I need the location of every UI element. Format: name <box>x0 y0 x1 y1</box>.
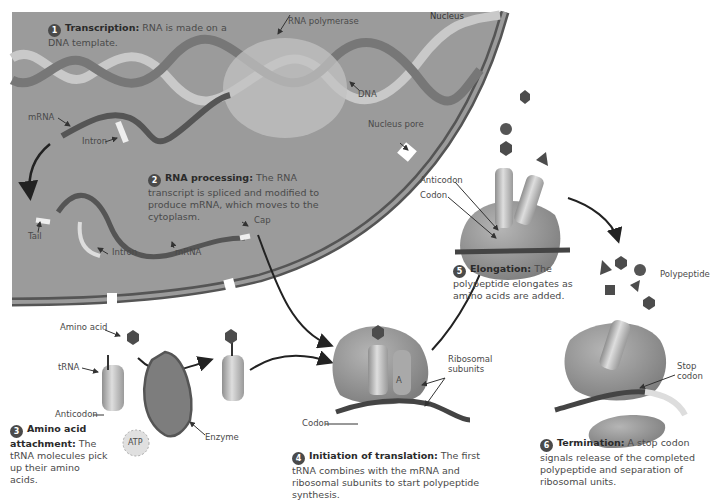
codon-step4-label: Codon <box>302 419 329 429</box>
intron-bottom-label: Intron <box>112 248 137 258</box>
trna-label: tRNA <box>58 363 79 373</box>
mrna-bottom-label: mRNA <box>175 248 201 258</box>
rna-polymerase-label: RNA polymerase <box>288 17 359 27</box>
polypeptide-label: Polypeptide <box>660 270 710 280</box>
step-title: Transcription: <box>65 22 139 33</box>
intron-top-label: Intron <box>82 137 107 147</box>
step-number-badge: 3 <box>10 425 23 438</box>
step-title: Elongation: <box>470 263 531 274</box>
anticodon-step5-label: Anticodon <box>420 176 463 186</box>
nucleus-label: Nucleus <box>430 12 464 22</box>
ribosome-step5 <box>455 90 570 280</box>
step-title: Termination: <box>557 437 625 448</box>
enzyme-label: Enzyme <box>205 433 239 443</box>
step-number-badge: 1 <box>48 24 61 37</box>
rna-polymerase-shape <box>223 38 347 138</box>
step-number-badge: 6 <box>540 439 553 452</box>
stop-codon-label: Stop codon <box>677 362 707 382</box>
enzyme-shape <box>144 352 191 436</box>
dna-label: DNA <box>358 90 377 100</box>
trna-step3 <box>102 330 139 411</box>
step-5-caption: 5Elongation: The polypeptide elongates a… <box>453 263 603 302</box>
step-3-caption: 3Amino acid attachment: The tRNA molecul… <box>10 423 110 486</box>
mrna-top-label: mRNA <box>28 113 54 123</box>
anticodon-step3-label: Anticodon <box>55 410 98 420</box>
a-site-label: A <box>396 376 402 386</box>
step-title: RNA processing: <box>165 172 253 183</box>
protein-synthesis-diagram: Nucleus Nucleus pore RNA polymerase DNA … <box>0 0 718 502</box>
tail-label: Tail <box>28 232 42 242</box>
polypeptide-chain <box>600 256 655 310</box>
amino-acid-label: Amino acid <box>60 323 107 333</box>
nucleus-pore-label: Nucleus pore <box>368 120 424 130</box>
ribosomal-subunits-label: Ribosomal subunits <box>448 355 493 375</box>
charged-trna <box>222 329 244 401</box>
step-6-caption: 6Termination: A stop codon signals relea… <box>540 437 710 488</box>
step-title: Initiation of translation: <box>309 450 438 461</box>
atp-label: ATP <box>128 438 143 447</box>
step-1-caption: 1Transcription: RNA is made on a DNA tem… <box>48 22 248 49</box>
codon-step5-label: Codon <box>420 191 447 201</box>
step-4-caption: 4Initiation of translation: The first tR… <box>292 450 482 501</box>
step-2-caption: 2RNA processing: The RNA transcript is s… <box>148 172 333 223</box>
step-number-badge: 4 <box>292 452 305 465</box>
step-number-badge: 2 <box>148 174 161 187</box>
step-number-badge: 5 <box>453 265 466 278</box>
